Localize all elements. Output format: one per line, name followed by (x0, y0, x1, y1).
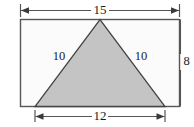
right-dimension-label: 8 (183, 54, 189, 68)
bottom-dimension-label: 12 (94, 108, 107, 123)
bottom-dimension-group: 12 (35, 108, 165, 123)
top-dimension-group: 15 (21, 2, 180, 17)
figure-canvas: 15 8 10 10 12 (0, 0, 194, 127)
right-leg-label: 10 (135, 49, 148, 63)
right-dimension-group: 8 (181, 20, 190, 107)
geometry-figure: 15 8 10 10 12 (0, 0, 194, 127)
left-leg-label: 10 (53, 49, 66, 63)
bottom-dimension-arrow-right-icon (157, 113, 165, 119)
bottom-dimension-arrow-left-icon (36, 113, 44, 119)
top-dimension-label: 15 (94, 2, 107, 17)
top-dimension-arrow-left-icon (21, 7, 29, 13)
top-dimension-arrow-right-icon (171, 7, 179, 13)
